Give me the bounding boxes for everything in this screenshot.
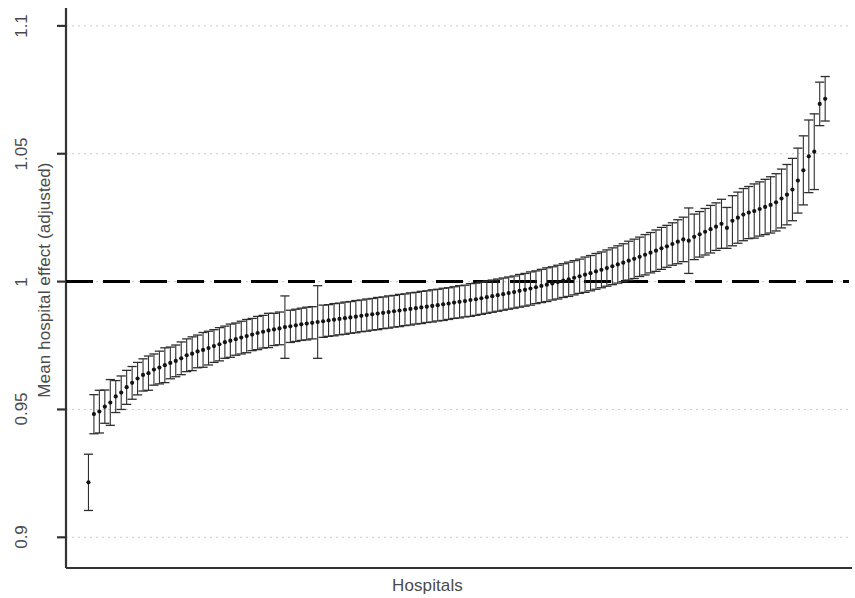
data-point bbox=[583, 273, 587, 277]
data-point bbox=[141, 373, 145, 377]
data-point bbox=[818, 102, 822, 106]
data-point bbox=[250, 332, 254, 336]
data-point bbox=[457, 300, 461, 304]
data-point bbox=[741, 213, 745, 217]
data-point bbox=[485, 295, 489, 299]
data-point bbox=[354, 315, 358, 319]
data-point bbox=[523, 288, 527, 292]
data-point bbox=[392, 309, 396, 313]
data-point bbox=[561, 278, 565, 282]
data-point bbox=[97, 409, 101, 413]
data-point bbox=[796, 179, 800, 183]
data-point bbox=[103, 405, 107, 409]
data-point bbox=[790, 187, 794, 191]
data-point bbox=[92, 412, 96, 416]
data-point bbox=[316, 320, 320, 324]
data-point bbox=[223, 340, 227, 344]
data-point bbox=[616, 262, 620, 266]
data-point bbox=[463, 299, 467, 303]
data-point bbox=[414, 306, 418, 310]
data-point bbox=[245, 334, 249, 338]
data-point bbox=[86, 480, 90, 484]
data-point bbox=[774, 200, 778, 204]
data-point bbox=[708, 227, 712, 231]
data-point bbox=[348, 315, 352, 319]
data-point bbox=[419, 305, 423, 309]
y-axis-label: Mean hospital effect (adjusted) bbox=[35, 115, 55, 445]
data-point bbox=[326, 318, 330, 322]
data-point bbox=[638, 255, 642, 259]
data-point bbox=[643, 253, 647, 257]
data-point bbox=[201, 348, 205, 352]
data-point bbox=[130, 381, 134, 385]
data-point bbox=[376, 311, 380, 315]
data-point bbox=[654, 249, 658, 253]
data-point bbox=[206, 346, 210, 350]
data-point bbox=[725, 226, 729, 230]
data-point bbox=[719, 222, 723, 226]
data-point bbox=[578, 274, 582, 278]
data-point bbox=[528, 286, 532, 290]
data-point bbox=[217, 342, 221, 346]
data-point bbox=[632, 257, 636, 261]
chart-figure: Mean hospital effect (adjusted) Hospital… bbox=[0, 0, 855, 598]
data-point bbox=[517, 289, 521, 293]
data-point bbox=[627, 259, 631, 263]
data-point bbox=[114, 394, 118, 398]
data-point bbox=[468, 298, 472, 302]
data-point bbox=[299, 322, 303, 326]
data-point bbox=[534, 285, 538, 289]
data-point bbox=[288, 324, 292, 328]
data-point bbox=[185, 353, 189, 357]
data-point bbox=[452, 300, 456, 304]
data-point bbox=[256, 331, 260, 335]
data-point bbox=[801, 168, 805, 172]
data-point bbox=[212, 344, 216, 348]
data-point bbox=[234, 337, 238, 341]
data-point bbox=[605, 266, 609, 270]
data-point bbox=[572, 276, 576, 280]
data-point bbox=[196, 349, 200, 353]
data-point bbox=[681, 237, 685, 241]
data-point bbox=[648, 251, 652, 255]
data-point bbox=[261, 330, 265, 334]
data-point bbox=[545, 283, 549, 287]
data-point bbox=[474, 297, 478, 301]
data-point bbox=[441, 302, 445, 306]
data-point bbox=[332, 318, 336, 322]
data-point bbox=[425, 305, 429, 309]
data-point bbox=[370, 312, 374, 316]
data-point bbox=[769, 203, 773, 207]
data-point bbox=[698, 232, 702, 236]
data-point bbox=[266, 328, 270, 332]
caterpillar-plot-svg bbox=[0, 0, 855, 598]
data-point bbox=[758, 207, 762, 211]
data-point bbox=[539, 284, 543, 288]
data-point bbox=[125, 385, 129, 389]
data-point bbox=[676, 240, 680, 244]
data-point bbox=[512, 290, 516, 294]
data-point bbox=[599, 268, 603, 272]
data-point bbox=[588, 271, 592, 275]
data-point bbox=[447, 301, 451, 305]
data-point bbox=[763, 205, 767, 209]
data-point bbox=[119, 390, 123, 394]
data-point bbox=[135, 376, 139, 380]
data-point bbox=[387, 310, 391, 314]
data-point bbox=[752, 209, 756, 213]
data-point bbox=[239, 336, 243, 340]
data-point bbox=[343, 316, 347, 320]
data-point bbox=[621, 261, 625, 265]
y-axis-ticks bbox=[57, 26, 66, 537]
data-point bbox=[714, 225, 718, 229]
data-point bbox=[670, 242, 674, 246]
data-point bbox=[157, 365, 161, 369]
data-point bbox=[403, 308, 407, 312]
data-point bbox=[785, 193, 789, 197]
data-point bbox=[152, 367, 156, 371]
data-point bbox=[294, 323, 298, 327]
data-point bbox=[146, 371, 150, 375]
data-point bbox=[397, 308, 401, 312]
data-point bbox=[550, 281, 554, 285]
data-point bbox=[779, 196, 783, 200]
